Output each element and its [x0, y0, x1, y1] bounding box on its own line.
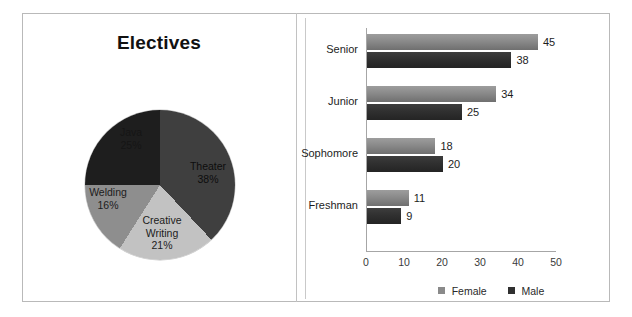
- bar-value-sophomore-male: 20: [448, 158, 460, 170]
- bar-chart-plot-area: Senior 45 38 Junior 34 25 So: [366, 28, 556, 252]
- bar-freshman-female: 11: [367, 190, 409, 206]
- bar-value-junior-male: 25: [467, 106, 479, 118]
- pie-slice-label-java: Java 25%: [103, 126, 159, 151]
- x-axis-line: [366, 251, 556, 252]
- legend-item-female: Female: [438, 284, 487, 297]
- x-tick-0: 0: [363, 256, 369, 268]
- bar-senior-female: 45: [367, 34, 538, 50]
- legend-label-male: Male: [522, 285, 545, 297]
- bar-value-freshman-female: 11: [414, 192, 425, 204]
- pie-slice-name-welding: Welding: [77, 186, 139, 199]
- category-label-sophomore: Sophomore: [301, 147, 358, 159]
- bar-value-sophomore-female: 18: [440, 140, 452, 152]
- pie-slice-name-theater: Theater: [177, 160, 239, 173]
- x-tick-40: 40: [512, 256, 524, 268]
- bar-chart-legend: Female Male: [366, 284, 616, 297]
- pie-chart-panel: Electives Java 25% Theater 38% Welding 1…: [23, 14, 295, 301]
- pie-slice-pct-theater: 38%: [177, 173, 239, 186]
- pie-slice-label-creative-writing: Creative Writing 21%: [131, 214, 193, 252]
- chart-screenshot: Electives Java 25% Theater 38% Welding 1…: [0, 0, 632, 317]
- pie-slice-name-java: Java: [103, 126, 159, 139]
- legend-label-female: Female: [452, 285, 487, 297]
- pie-slice-name-writing: Writing: [131, 227, 193, 240]
- pie-slice-pct-welding: 16%: [77, 199, 139, 212]
- bar-junior-female: 34: [367, 86, 496, 102]
- bar-value-senior-male: 38: [516, 54, 528, 66]
- x-tick-30: 30: [474, 256, 486, 268]
- category-label-senior: Senior: [326, 43, 358, 55]
- category-label-junior: Junior: [328, 95, 358, 107]
- panel-divider-left: [296, 13, 297, 302]
- pie-slice-pct-creative-writing: 21%: [131, 239, 193, 252]
- pie-chart-graphic: Java 25% Theater 38% Welding 16% Creativ…: [85, 110, 235, 260]
- bar-freshman-male: 9: [367, 208, 401, 224]
- pie-slice-label-theater: Theater 38%: [177, 160, 239, 185]
- legend-swatch-male-icon: [508, 287, 515, 294]
- x-tick-10: 10: [398, 256, 410, 268]
- bar-value-senior-female: 45: [543, 36, 555, 48]
- bar-junior-male: 25: [367, 104, 462, 120]
- pie-slice-name-creative: Creative: [131, 214, 193, 227]
- pie-slice-pct-java: 25%: [103, 139, 159, 152]
- legend-item-male: Male: [508, 284, 545, 297]
- x-tick-20: 20: [436, 256, 448, 268]
- bar-value-freshman-male: 9: [406, 210, 412, 222]
- bar-value-junior-female: 34: [501, 88, 513, 100]
- pie-slice-label-welding: Welding 16%: [77, 186, 139, 211]
- bar-sophomore-female: 18: [367, 138, 435, 154]
- bar-chart-panel: Senior 45 38 Junior 34 25 So: [306, 14, 609, 301]
- bar-senior-male: 38: [367, 52, 511, 68]
- category-label-freshman: Freshman: [308, 199, 358, 211]
- pie-chart-title: Electives: [23, 32, 295, 54]
- legend-swatch-female-icon: [438, 287, 445, 294]
- bar-sophomore-male: 20: [367, 156, 443, 172]
- x-tick-50: 50: [550, 256, 562, 268]
